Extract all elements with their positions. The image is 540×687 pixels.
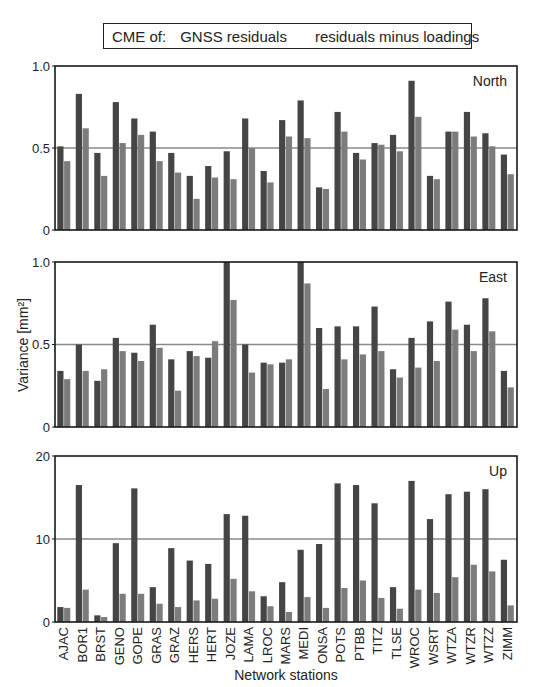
panel-east: 00.51.0East — [32, 255, 517, 435]
bar-residuals-minus-loadings — [157, 348, 163, 427]
bar-gnss-residuals — [94, 615, 100, 622]
bar-gnss-residuals — [57, 371, 63, 427]
y-axis-title: Variance [mm²] — [15, 298, 31, 392]
bar-residuals-minus-loadings — [471, 565, 477, 622]
bar-residuals-minus-loadings — [471, 351, 477, 427]
bar-residuals-minus-loadings — [120, 594, 126, 622]
bar-residuals-minus-loadings — [341, 359, 347, 427]
bar-gnss-residuals — [390, 369, 396, 427]
bar-residuals-minus-loadings — [286, 359, 292, 427]
x-tick-label: POTS — [333, 627, 348, 663]
bar-gnss-residuals — [353, 485, 359, 622]
x-tick-label: ONSA — [315, 627, 330, 664]
y-tick-label: 1.0 — [32, 255, 50, 270]
x-tick-label: MARS — [278, 627, 293, 665]
bar-gnss-residuals — [501, 371, 507, 427]
panel-north: 00.51.0North — [32, 59, 517, 238]
x-tick-label: LAMA — [241, 627, 256, 663]
y-tick-label: 0 — [43, 615, 50, 630]
panel-title: East — [479, 269, 507, 285]
bar-gnss-residuals — [76, 345, 82, 428]
bar-gnss-residuals — [335, 112, 341, 230]
bar-residuals-minus-loadings — [489, 146, 495, 230]
y-tick-label: 10 — [36, 532, 50, 547]
bar-gnss-residuals — [353, 153, 359, 230]
bar-gnss-residuals — [335, 326, 341, 427]
bar-gnss-residuals — [261, 363, 267, 427]
y-tick-label: 0.5 — [32, 337, 50, 352]
x-tick-label: BRST — [93, 627, 108, 662]
bar-residuals-minus-loadings — [83, 371, 89, 427]
bar-residuals-minus-loadings — [286, 612, 292, 622]
x-tick-label: WTZZ — [481, 627, 496, 663]
bar-residuals-minus-loadings — [323, 189, 329, 230]
bar-residuals-minus-loadings — [341, 132, 347, 230]
bar-gnss-residuals — [205, 166, 211, 230]
bar-gnss-residuals — [408, 338, 414, 427]
bar-gnss-residuals — [445, 494, 451, 622]
bar-residuals-minus-loadings — [397, 151, 403, 230]
bar-gnss-residuals — [57, 146, 63, 230]
bar-residuals-minus-loadings — [452, 330, 458, 427]
bar-residuals-minus-loadings — [415, 117, 421, 230]
x-tick-label: TLSE — [389, 627, 404, 660]
bar-gnss-residuals — [242, 345, 248, 428]
bar-residuals-minus-loadings — [508, 605, 514, 622]
bar-gnss-residuals — [150, 587, 156, 622]
bar-gnss-residuals — [482, 489, 488, 622]
bar-residuals-minus-loadings — [304, 138, 310, 230]
bar-residuals-minus-loadings — [360, 581, 366, 623]
bar-chart: 00.51.0North00.51.0East01020UpAJACBOR1BR… — [0, 0, 540, 687]
bar-gnss-residuals — [131, 353, 137, 427]
bar-gnss-residuals — [371, 503, 377, 622]
bar-gnss-residuals — [445, 302, 451, 427]
x-tick-label: GRAS — [149, 627, 164, 664]
bar-gnss-residuals — [113, 338, 119, 427]
bar-residuals-minus-loadings — [267, 606, 273, 622]
bar-residuals-minus-loadings — [175, 607, 181, 622]
x-tick-label: BOR1 — [75, 627, 90, 662]
bar-gnss-residuals — [131, 118, 137, 230]
bar-residuals-minus-loadings — [138, 135, 144, 230]
bar-gnss-residuals — [224, 514, 230, 622]
bar-residuals-minus-loadings — [157, 161, 163, 230]
bar-residuals-minus-loadings — [378, 351, 384, 427]
bar-gnss-residuals — [224, 151, 230, 230]
bar-gnss-residuals — [298, 100, 304, 230]
bar-residuals-minus-loadings — [249, 148, 255, 230]
bar-residuals-minus-loadings — [64, 608, 70, 622]
bar-gnss-residuals — [408, 81, 414, 230]
bar-gnss-residuals — [482, 298, 488, 427]
bar-gnss-residuals — [427, 519, 433, 622]
bar-gnss-residuals — [168, 359, 174, 427]
bar-residuals-minus-loadings — [341, 588, 347, 622]
bar-gnss-residuals — [224, 262, 230, 427]
bar-gnss-residuals — [427, 176, 433, 230]
bar-residuals-minus-loadings — [471, 137, 477, 230]
bar-gnss-residuals — [168, 153, 174, 230]
bar-residuals-minus-loadings — [489, 571, 495, 622]
bar-gnss-residuals — [57, 607, 63, 622]
bar-residuals-minus-loadings — [230, 179, 236, 230]
x-axis-labels: AJACBOR1BRSTGENOGOPEGRASGRAZHERSHERTJOZE… — [56, 627, 515, 668]
bar-gnss-residuals — [316, 328, 322, 427]
x-tick-label: GENO — [112, 627, 127, 665]
panel-title: Up — [489, 463, 507, 479]
bar-gnss-residuals — [298, 262, 304, 427]
bar-gnss-residuals — [150, 325, 156, 427]
bar-residuals-minus-loadings — [212, 599, 218, 622]
bar-gnss-residuals — [335, 483, 341, 622]
x-tick-label: PTBB — [352, 627, 367, 661]
bar-gnss-residuals — [482, 133, 488, 230]
bar-residuals-minus-loadings — [138, 594, 144, 622]
bar-residuals-minus-loadings — [415, 368, 421, 427]
bar-residuals-minus-loadings — [230, 300, 236, 427]
x-tick-label: HERT — [204, 627, 219, 662]
bar-residuals-minus-loadings — [212, 178, 218, 230]
bar-residuals-minus-loadings — [304, 283, 310, 427]
bar-residuals-minus-loadings — [157, 604, 163, 622]
bar-gnss-residuals — [298, 550, 304, 622]
bar-residuals-minus-loadings — [267, 182, 273, 230]
bar-gnss-residuals — [187, 351, 193, 427]
bar-gnss-residuals — [464, 325, 470, 427]
